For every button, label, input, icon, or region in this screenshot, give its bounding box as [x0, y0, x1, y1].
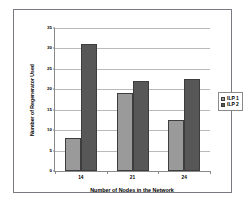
gridline — [55, 48, 210, 49]
y-tick-mark — [53, 109, 55, 110]
x-tick-label: 21 — [130, 176, 135, 181]
x-tick-mark — [158, 171, 159, 174]
bar-ilp-1-14 — [65, 138, 81, 171]
y-tick-label: 20 — [47, 87, 52, 91]
bar-ilp-1-21 — [117, 93, 133, 171]
bar-ilp-2-24 — [184, 79, 200, 171]
y-tick-label: 30 — [47, 46, 52, 50]
plot-area: 05101520253035142124 — [54, 28, 210, 172]
screenshot-root: 05101520253035142124 Number of Regenerat… — [0, 0, 249, 207]
gridline — [55, 28, 210, 29]
chart-legend: ILP 1ILP 2 — [218, 92, 243, 111]
legend-item-ilp-2[interactable]: ILP 2 — [221, 102, 239, 107]
x-tick-mark — [107, 171, 108, 174]
y-tick-mark — [53, 89, 55, 90]
y-tick-label: 5 — [50, 148, 52, 152]
y-tick-label: 25 — [47, 67, 52, 71]
y-tick-mark — [53, 150, 55, 151]
bar-ilp-2-21 — [133, 81, 149, 171]
y-tick-label: 35 — [47, 26, 52, 30]
y-tick-label: 15 — [47, 108, 52, 112]
x-tick-label: 24 — [181, 176, 186, 181]
chart-frame: 05101520253035142124 Number of Regenerat… — [13, 9, 232, 193]
x-tick-mark — [210, 171, 211, 174]
bar-ilp-2-14 — [81, 44, 97, 171]
y-tick-mark — [53, 68, 55, 69]
x-tick-label: 14 — [78, 176, 83, 181]
y-tick-mark — [53, 130, 55, 131]
gridline — [55, 69, 210, 70]
x-axis-title: Number of Nodes in the Network — [54, 188, 210, 193]
y-tick-label: 0 — [50, 169, 52, 173]
y-tick-label: 10 — [47, 128, 52, 132]
y-tick-mark — [53, 48, 55, 49]
x-tick-mark — [55, 171, 56, 174]
y-axis-title: Number of Regenerator Used — [30, 64, 35, 136]
legend-swatch-icon — [221, 97, 225, 101]
y-tick-mark — [53, 28, 55, 29]
legend-swatch-icon — [221, 103, 225, 107]
legend-label: ILP 2 — [227, 102, 239, 107]
bar-ilp-1-24 — [168, 120, 184, 171]
